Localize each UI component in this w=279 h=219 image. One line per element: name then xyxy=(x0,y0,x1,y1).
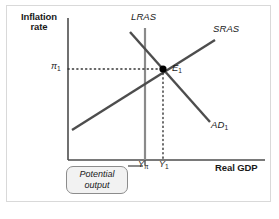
pi1-sub: 1 xyxy=(57,65,61,72)
x-tick-label-y1: Y1 xyxy=(159,160,169,170)
equilibrium-label-e1: E1 xyxy=(172,63,182,73)
y-tick-label-pi1: π1 xyxy=(51,62,61,72)
lras-curve-label: LRAS xyxy=(131,12,156,22)
equilibrium-point-e1 xyxy=(159,65,166,72)
sras-curve-label: SRAS xyxy=(213,24,239,34)
y-axis-title: Inflation rate xyxy=(13,12,65,33)
ypi-sub: π xyxy=(144,163,149,170)
callout-line1: Potential xyxy=(79,169,114,180)
sras-curve xyxy=(72,40,215,130)
y1-sub: 1 xyxy=(165,163,169,170)
ad1-sub: 1 xyxy=(224,124,228,131)
ad-as-diagram-figure: Inflation rate Real GDP π1 LRAS SRAS AD1… xyxy=(0,0,279,219)
x-axis-title: Real GDP xyxy=(215,163,258,173)
ad1-base: AD xyxy=(211,119,224,130)
ad1-curve-label: AD1 xyxy=(211,120,228,130)
y-axis-title-line2: rate xyxy=(30,21,47,32)
potential-output-callout: Potential output xyxy=(66,166,128,194)
e1-sub: 1 xyxy=(178,67,182,74)
ad1-curve xyxy=(130,32,210,122)
x-tick-label-potential-output: Yπ xyxy=(138,160,149,170)
callout-line2: output xyxy=(84,180,109,191)
